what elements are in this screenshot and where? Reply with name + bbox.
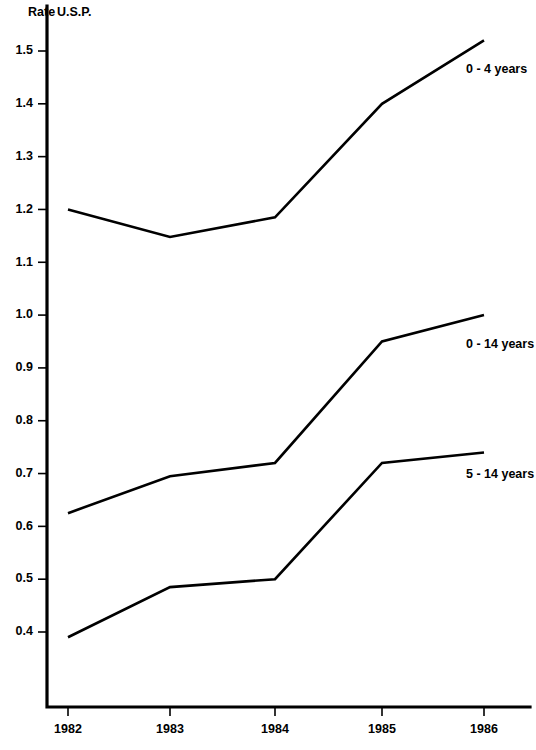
line-chart: 0.40.50.60.70.80.91.01.11.21.31.41.5 198… <box>0 0 536 750</box>
y-axis-tick-label: 0.4 <box>16 624 33 638</box>
x-axis-tick-label: 1982 <box>54 722 82 736</box>
x-axis-tick-label: 1985 <box>368 722 396 736</box>
y-axis-tick-label: 1.0 <box>16 307 33 321</box>
y-axis-tick-label: 1.1 <box>16 255 33 269</box>
series-label: 0 - 4 years <box>466 62 527 76</box>
y-axis-tick-label: 1.5 <box>16 43 33 57</box>
series-labels-group: 0 - 4 years0 - 14 years5 - 14 years <box>466 62 534 481</box>
y-axis-tick-label: 1.3 <box>16 149 33 163</box>
unit-label: U.S.P. <box>57 5 92 19</box>
series-label: 5 - 14 years <box>466 467 534 481</box>
y-axis-tick-label: 0.7 <box>16 466 33 480</box>
y-axis-tick-labels: 0.40.50.60.70.80.91.01.11.21.31.41.5 <box>16 43 33 638</box>
y-axis-tick-label: 0.9 <box>16 360 33 374</box>
x-axis-tick-label: 1984 <box>261 722 289 736</box>
y-axis-tick-label: 0.5 <box>16 571 33 585</box>
y-axis-tick-label: 0.6 <box>16 519 33 533</box>
chart-container: 0.40.50.60.70.80.91.01.11.21.31.41.5 198… <box>0 0 536 750</box>
y-axis-title: Rate <box>28 5 55 19</box>
y-axis-tick-label: 1.2 <box>16 202 33 216</box>
y-axis-tick-label: 0.8 <box>16 413 33 427</box>
x-axis-tick-label: 1983 <box>156 722 184 736</box>
series-label: 0 - 14 years <box>466 337 534 351</box>
data-series-group <box>68 40 484 637</box>
series-line <box>68 40 484 236</box>
y-axis-tick-label: 1.4 <box>16 96 33 110</box>
x-axis-tick-labels: 19821983198419851986 <box>54 722 498 736</box>
series-line <box>68 315 484 513</box>
series-line <box>68 452 484 637</box>
x-axis-tick-label: 1986 <box>470 722 498 736</box>
axes <box>47 6 530 707</box>
